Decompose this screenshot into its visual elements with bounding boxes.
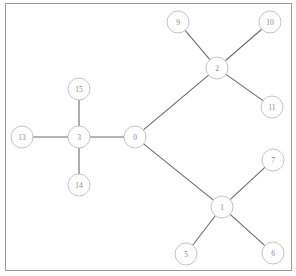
graph-node-6[interactable]: 6 <box>262 242 284 264</box>
graph-edge-0-1 <box>144 144 214 200</box>
graph-node-9[interactable]: 9 <box>167 11 189 33</box>
node-link-graph: 031315142910111756 <box>0 0 296 276</box>
node-label-0: 0 <box>133 133 137 142</box>
graph-node-1[interactable]: 1 <box>211 196 233 218</box>
node-label-14: 14 <box>75 181 83 190</box>
graph-node-5[interactable]: 5 <box>175 243 197 265</box>
graph-node-2[interactable]: 2 <box>206 57 228 79</box>
node-label-1: 1 <box>220 203 224 212</box>
node-label-15: 15 <box>75 85 83 94</box>
graph-node-15[interactable]: 15 <box>68 78 90 100</box>
graph-edge-1-5 <box>193 216 216 246</box>
graph-node-14[interactable]: 14 <box>68 174 90 196</box>
graph-node-0[interactable]: 0 <box>124 126 146 148</box>
node-label-2: 2 <box>215 64 219 73</box>
graph-node-3[interactable]: 3 <box>68 126 90 148</box>
graph-edge-2-10 <box>225 29 261 61</box>
graph-edge-2-9 <box>185 30 210 59</box>
graph-edge-0-2 <box>143 75 208 130</box>
node-label-9: 9 <box>176 18 180 27</box>
node-label-11: 11 <box>268 103 275 112</box>
node-label-5: 5 <box>184 250 188 259</box>
node-label-13: 13 <box>18 133 26 142</box>
graph-edge-1-7 <box>230 167 265 199</box>
node-label-7: 7 <box>271 156 275 165</box>
graph-node-10[interactable]: 10 <box>259 11 281 33</box>
graph-node-11[interactable]: 11 <box>261 96 283 118</box>
graph-node-7[interactable]: 7 <box>262 149 284 171</box>
node-label-3: 3 <box>77 133 81 142</box>
node-label-10: 10 <box>266 18 274 27</box>
graph-figure-canvas: 031315142910111756 <box>0 0 296 276</box>
graph-node-13[interactable]: 13 <box>11 126 33 148</box>
graph-edge-2-11 <box>226 74 263 100</box>
graph-edge-1-6 <box>230 214 265 245</box>
node-layer: 031315142910111756 <box>11 11 284 265</box>
node-label-6: 6 <box>271 249 275 258</box>
